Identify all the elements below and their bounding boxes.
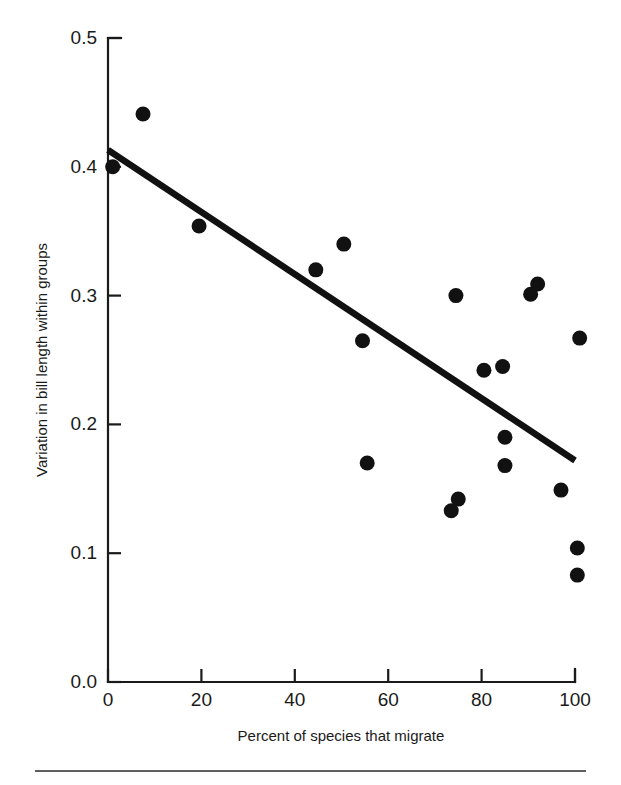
regression-line bbox=[108, 150, 575, 460]
y-tick-label: 0.5 bbox=[71, 27, 97, 48]
x-tick-label: 40 bbox=[284, 689, 305, 710]
data-point bbox=[570, 568, 585, 583]
data-point bbox=[553, 483, 568, 498]
figure-container: 0.00.10.20.30.40.5 020406080100 Variatio… bbox=[0, 0, 621, 785]
data-point bbox=[530, 277, 545, 292]
x-tick-label: 20 bbox=[191, 689, 212, 710]
x-tick-label: 60 bbox=[378, 689, 399, 710]
data-point bbox=[476, 363, 491, 378]
y-tick-label: 0.3 bbox=[71, 285, 97, 306]
data-point bbox=[192, 219, 207, 234]
x-tick-label: 80 bbox=[471, 689, 492, 710]
data-point bbox=[497, 458, 512, 473]
data-point bbox=[451, 492, 466, 507]
data-point bbox=[105, 159, 120, 174]
data-point bbox=[570, 541, 585, 556]
data-points-group bbox=[105, 106, 587, 582]
y-tick-label: 0.1 bbox=[71, 542, 97, 563]
scatter-plot: 0.00.10.20.30.40.5 020406080100 Variatio… bbox=[0, 0, 621, 785]
y-tick-label: 0.0 bbox=[71, 671, 97, 692]
data-point bbox=[495, 359, 510, 374]
y-tick-label: 0.2 bbox=[71, 413, 97, 434]
x-tick-label: 0 bbox=[103, 689, 114, 710]
x-axis-title: Percent of species that migrate bbox=[238, 727, 445, 744]
x-axis-ticks: 020406080100 bbox=[103, 669, 591, 710]
data-point bbox=[497, 430, 512, 445]
data-point bbox=[336, 237, 351, 252]
data-point bbox=[572, 331, 587, 346]
y-axis-title: Variation in bill length within groups bbox=[33, 243, 50, 477]
data-point bbox=[360, 456, 375, 471]
y-axis-ticks: 0.00.10.20.30.40.5 bbox=[71, 27, 121, 692]
data-point bbox=[355, 333, 370, 348]
y-tick-label: 0.4 bbox=[71, 156, 98, 177]
data-point bbox=[308, 262, 323, 277]
data-point bbox=[136, 106, 151, 121]
data-point bbox=[448, 288, 463, 303]
x-tick-label: 100 bbox=[559, 689, 591, 710]
